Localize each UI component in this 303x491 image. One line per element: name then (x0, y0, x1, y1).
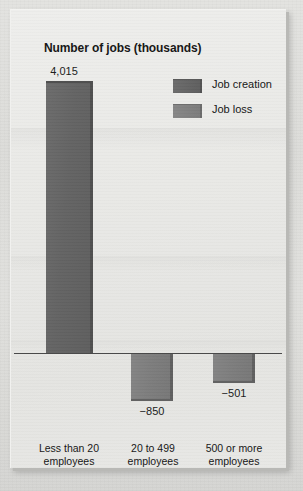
data-label-500-or-more: −501 (199, 387, 269, 399)
category-line-2: employees (24, 455, 114, 468)
category-label-500-or-more: 500 or more employees (189, 442, 279, 467)
category-label-20-to-499: 20 to 499 employees (108, 442, 198, 467)
legend-swatch-job-loss (173, 104, 202, 118)
category-line-2: employees (189, 455, 279, 468)
category-line-2: employees (108, 455, 198, 468)
chart-title: Number of jobs (thousands) (44, 41, 201, 55)
legend-swatch-job-creation (173, 79, 202, 93)
category-line-1: 500 or more (189, 442, 279, 455)
bar-face (131, 354, 173, 401)
data-label-less-than-20: 4,015 (29, 65, 99, 77)
legend-label-job-creation: Job creation (212, 78, 272, 90)
bar-job-creation-less-than-20 (46, 81, 93, 353)
chart-panel: Number of jobs (thousands) Job creation … (10, 9, 286, 468)
data-label-20-to-499: −850 (117, 405, 187, 417)
bar-face (46, 81, 93, 353)
category-line-1: 20 to 499 (108, 442, 198, 455)
bar-job-loss-20-to-499 (131, 354, 173, 401)
category-label-less-than-20: Less than 20 employees (24, 442, 114, 467)
legend-label-job-loss: Job loss (212, 103, 252, 115)
bar-face (213, 354, 255, 383)
category-line-1: Less than 20 (24, 442, 114, 455)
bar-job-loss-500-or-more (213, 354, 255, 383)
